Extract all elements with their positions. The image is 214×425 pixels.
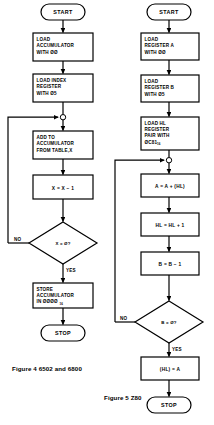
node-l-join-connector — [60, 115, 65, 120]
node-r-box2: LOAD REGISTER B WITH Ø5 — [141, 75, 199, 102]
node-l-box3-line2: ACCUMULATOR — [37, 141, 75, 146]
node-r-box4: A = A + (HL) — [141, 174, 199, 197]
flowchart-right: START LOAD REGISTER A WITH ØØ LOAD REGIS… — [115, 4, 203, 413]
node-l-box5-line3: IN ØØØØ — [37, 299, 58, 304]
branch-label-l-no: NO — [14, 237, 22, 242]
node-l-box5-line2: ACCUMULATOR — [37, 293, 75, 298]
node-l-stop-label: STOP — [55, 330, 71, 336]
flowchart-figure-pair: START LOAD ACCUMULATOR WITH ØØ LOAD INDE… — [0, 0, 214, 425]
node-r-join-connector — [166, 158, 171, 163]
node-l-box1: LOAD ACCUMULATOR WITH ØØ — [33, 33, 93, 61]
node-r-decision-label: B = Ø? — [161, 320, 177, 325]
node-r-stop-label: STOP — [161, 402, 177, 408]
node-l-box3-line3: FROM TABLE,X — [37, 148, 74, 153]
node-r-box3: LOAD HL REGISTER PAIR WITH ØC81 16 — [141, 117, 199, 150]
node-l-box3: ADD TO ACCUMULATOR FROM TABLE,X — [33, 131, 93, 159]
node-r-box3-line1: LOAD HL — [145, 121, 167, 126]
node-l-box3-line1: ADD TO — [37, 135, 56, 140]
node-r-box1-line3: WITH ØØ — [145, 50, 166, 55]
branch-label-r-no: NO — [120, 316, 128, 321]
branch-label-r-yes: YES — [172, 347, 182, 352]
node-l-box2-line2: REGISTER — [37, 84, 62, 89]
node-r-box6: B = B − 1 — [141, 252, 199, 275]
node-r-box2-line1: LOAD — [145, 79, 159, 84]
node-r-box1-line1: LOAD — [145, 37, 159, 42]
node-l-box5-line1: STORE — [37, 287, 54, 292]
node-r-box3-line2: REGISTER — [145, 127, 170, 132]
node-r-decision: B = Ø? — [135, 301, 203, 343]
node-r-start: START — [147, 4, 191, 20]
node-l-box4: X = X − 1 — [33, 175, 93, 199]
node-r-box1: LOAD REGISTER A WITH ØØ — [141, 33, 199, 60]
node-l-box1-line3: WITH ØØ — [37, 50, 58, 55]
node-l-start: START — [41, 4, 85, 20]
node-l-box1-line2: ACCUMULATOR — [37, 43, 75, 48]
node-r-start-label: START — [159, 9, 179, 15]
node-r-box3-subscript: 16 — [157, 142, 161, 146]
node-r-box3-line3: PAIR WITH — [145, 133, 171, 138]
node-l-box5: STORE ACCUMULATOR IN ØØØØ 16 — [33, 283, 93, 308]
node-l-box2: LOAD INDEX REGISTER WITH Ø5 — [33, 74, 93, 102]
flowchart-left: START LOAD ACCUMULATOR WITH ØØ LOAD INDE… — [8, 4, 97, 341]
figure-caption-right: Figure 5 Z80 — [104, 394, 142, 401]
node-l-box1-line1: LOAD — [37, 37, 51, 42]
node-l-box2-line1: LOAD INDEX — [37, 78, 68, 83]
node-l-decision-label: X = Ø? — [55, 241, 70, 246]
node-r-box1-line2: REGISTER A — [145, 43, 175, 48]
node-l-start-label: START — [53, 9, 73, 15]
node-l-decision: X = Ø? — [29, 222, 97, 264]
node-l-box2-line3: WITH Ø5 — [37, 91, 57, 96]
flowchart-canvas: START LOAD ACCUMULATOR WITH ØØ LOAD INDE… — [0, 0, 214, 425]
node-r-box5-label: HL = HL + 1 — [156, 223, 185, 228]
node-l-stop: STOP — [41, 325, 85, 341]
figure-caption-left: Figure 4 6502 and 6800 — [12, 365, 82, 372]
node-r-box5: HL = HL + 1 — [141, 213, 199, 236]
node-r-box7-label: (HL) = A — [160, 367, 181, 372]
node-l-box5-subscript: 16 — [60, 302, 64, 306]
node-r-box2-line3: WITH Ø5 — [145, 92, 165, 97]
node-l-box4-label: X = X − 1 — [52, 186, 74, 191]
node-r-stop: STOP — [147, 397, 191, 413]
node-r-box6-label: B = B − 1 — [159, 262, 182, 267]
node-r-box4-label: A = A + (HL) — [155, 184, 185, 189]
node-r-box7: (HL) = A — [141, 357, 199, 380]
node-r-box3-line4: ØC81 — [145, 140, 158, 145]
branch-label-l-yes: YES — [66, 268, 76, 273]
node-r-box2-line2: REGISTER B — [145, 85, 175, 90]
